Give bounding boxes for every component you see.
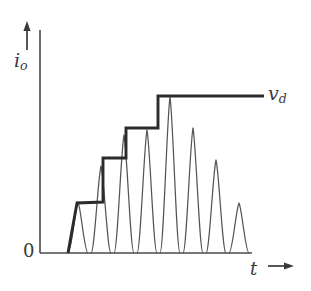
pulse-arch <box>206 160 226 253</box>
waveform-figure: io t 0 vd <box>0 0 311 291</box>
pulse-arch <box>229 203 249 253</box>
plot-area <box>0 0 311 291</box>
x-axis-arrow-icon <box>268 262 294 269</box>
pulse-arch <box>137 130 157 253</box>
pulse-arch <box>91 166 111 253</box>
pulse-arch <box>68 202 88 253</box>
origin-label: 0 <box>23 240 34 261</box>
y-axis-label-subscript: o <box>20 58 28 73</box>
y-axis-arrow-icon <box>23 21 30 50</box>
envelope-label-subscript: d <box>279 91 287 106</box>
pulse-arch <box>114 135 134 253</box>
envelope-label: vd <box>268 82 287 106</box>
x-axis-label: t <box>250 258 257 279</box>
envelope-label-main: v <box>268 82 279 104</box>
pulse-arch <box>183 128 203 253</box>
x-axis-label-main: t <box>250 258 257 279</box>
pulse-arch <box>160 97 180 253</box>
y-axis-label: io <box>14 49 28 73</box>
